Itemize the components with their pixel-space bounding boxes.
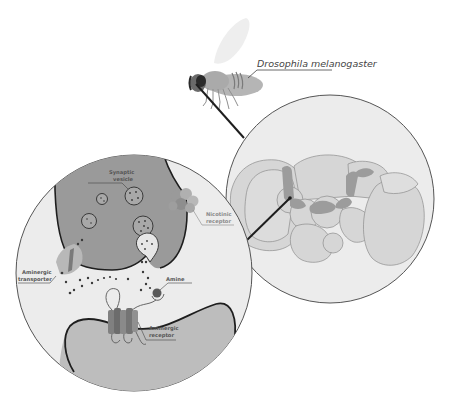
svg-text:Aminergic: Aminergic [149, 325, 179, 332]
brain-magnification-circle [226, 95, 434, 303]
svg-text:vesicle: vesicle [113, 176, 134, 182]
vesicle [82, 214, 97, 229]
diagram-canvas: Drosophila melanogaster [0, 0, 454, 413]
svg-text:Aminergic: Aminergic [22, 269, 52, 276]
species-label: Drosophila melanogaster [257, 58, 378, 69]
species-label-leader [248, 70, 332, 78]
svg-text:transporter: transporter [18, 276, 52, 283]
synapse-magnification-circle: Synaptic vesicle Nicotinic receptor Amin… [16, 150, 252, 410]
vesicle [125, 187, 143, 205]
svg-text:receptor: receptor [149, 332, 174, 339]
svg-text:receptor: receptor [206, 218, 231, 225]
svg-text:Amine: Amine [166, 276, 185, 282]
svg-text:Synaptic: Synaptic [109, 169, 134, 176]
fly-wing [214, 18, 249, 64]
svg-text:Nicotinic: Nicotinic [206, 211, 232, 217]
vesicle [97, 194, 108, 205]
fruit-fly-illustration: Drosophila melanogaster [190, 18, 378, 110]
label-aminergic-transporter: Aminergic transporter [18, 269, 56, 283]
